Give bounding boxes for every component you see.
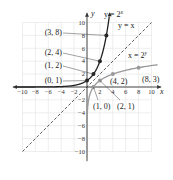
- x-tick-label: −8: [32, 88, 39, 95]
- data-point: [137, 66, 141, 70]
- point-label: (8, 3): [142, 75, 160, 84]
- x-tick-label: −6: [45, 88, 53, 95]
- y-tick-label: −2: [78, 96, 85, 103]
- x-axis-label: x: [159, 87, 164, 96]
- point-label: (0, 1): [45, 76, 63, 85]
- x-tick-label: −10: [17, 88, 27, 95]
- y-tick-label: −8: [78, 135, 85, 142]
- equation-label: y = x: [118, 21, 135, 30]
- leader-line: [63, 66, 93, 74]
- y-tick-label: 10: [79, 19, 86, 26]
- point-label: (2, 4): [45, 48, 63, 57]
- y-tick-label: −4: [78, 109, 86, 116]
- y-tick-label: −10: [75, 148, 85, 155]
- x-tick-label: 8: [137, 88, 140, 95]
- x-tick-label: 6: [124, 88, 128, 95]
- point-label: (3, 8): [45, 28, 63, 37]
- point-label: (1, 2): [45, 61, 63, 70]
- graph: xy −10−8−6−4−2246810108642−2−4−6−8−10 (0…: [0, 0, 173, 180]
- x-tick-label: −2: [71, 88, 78, 95]
- data-point: [111, 72, 115, 76]
- exponent: y: [144, 50, 148, 56]
- x-tick-label: 4: [111, 88, 115, 95]
- x-tick-label: 2: [98, 88, 101, 95]
- y-tick-label: 8: [82, 32, 85, 39]
- point-label: (4, 2): [110, 77, 128, 86]
- y-tick-label: −6: [78, 122, 86, 129]
- point-label: (1, 0): [93, 102, 111, 111]
- annotations: (0, 1)(1, 2)(2, 4)(3, 8)(4, 2)(8, 3)(1, …: [45, 9, 160, 111]
- equation-label: y = 2x: [104, 9, 124, 19]
- x-tick-label: 10: [148, 88, 155, 95]
- x-tick-label: −4: [58, 88, 66, 95]
- y-axis-arrow-up-icon: [85, 13, 89, 17]
- y-axis-label: y: [90, 9, 95, 18]
- exponent: x: [120, 9, 124, 15]
- curve-y-equals-2-to-x: [16, 17, 109, 87]
- point-label: (2, 1): [117, 102, 135, 111]
- equation-label: x = 2y: [128, 50, 148, 60]
